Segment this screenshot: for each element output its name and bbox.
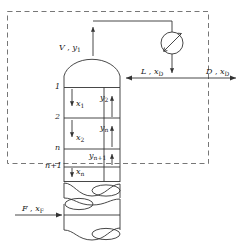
- distillation-column-diagram: V , y1 L , xD D , xD F , xF 1 2 n n+1 x1…: [0, 0, 243, 243]
- break-symbol-icon-lower: [64, 198, 120, 240]
- tray-number-1: 1: [55, 83, 60, 91]
- label-liquid-x1: x1: [76, 100, 84, 108]
- label-liquid-x2: x2: [76, 134, 84, 142]
- label-vapor-yn: yn: [100, 124, 108, 132]
- tray-number-n: n: [55, 144, 60, 152]
- label-reflux: L , xD: [141, 68, 163, 76]
- label-vapor-y2: y2: [100, 94, 108, 102]
- label-vapor-yn1: yn+1: [89, 152, 106, 160]
- label-liquid-xn: xn: [76, 168, 84, 176]
- overhead-vapor-line: [93, 21, 172, 56]
- tray-number-2: 2: [55, 113, 60, 121]
- tray-number-n1: n+1: [45, 162, 62, 170]
- label-feed: F , xF: [22, 205, 44, 213]
- label-distillate: D , xD: [206, 68, 229, 76]
- label-overhead-vapor: V , y1: [59, 44, 81, 52]
- heat-exchanger-icon: [161, 32, 183, 54]
